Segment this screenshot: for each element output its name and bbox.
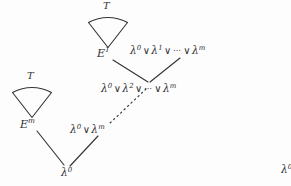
derivation-root-e1: E1 — [97, 48, 110, 59]
lambda-symbol: λ — [70, 123, 77, 135]
derivation-root-em: Em — [20, 119, 35, 130]
lambda-symbol: λ — [192, 44, 199, 56]
superscript-zero: 0 — [288, 164, 291, 171]
inference-edge-dotted — [109, 89, 146, 124]
inference-edges-solid — [37, 58, 180, 166]
lambda-symbol: λ — [130, 44, 137, 56]
vee-symbol: ∨ — [163, 45, 173, 56]
vee-symbol: ∨ — [81, 124, 91, 135]
clause-top-right: λ0∨λ1∨⋯∨λm — [130, 45, 206, 56]
vee-symbol: ∨ — [134, 83, 144, 94]
e1-superscript: 1 — [105, 45, 110, 54]
tree-label-bottom-left: T — [27, 71, 34, 81]
vee-symbol: ∨ — [112, 83, 122, 94]
vee-symbol: ∨ — [182, 45, 192, 56]
lambda-symbol: λ — [61, 166, 68, 178]
lambda-symbol: λ — [281, 164, 288, 175]
lambda-symbol: λ — [163, 82, 170, 94]
clause-middle: λ0∨λ2∨⋯∨λm — [101, 83, 177, 94]
diagram-canvas: T E1 λ0∨λ1∨⋯∨λm λ0∨λ2∨⋯∨λm T Em λ0∨λm λ0… — [0, 0, 291, 186]
superscript-m: m — [98, 123, 105, 131]
clause-bottom-resolvent: λ0 — [61, 167, 72, 178]
ellipsis-symbol: ⋯ — [173, 45, 182, 55]
lambda-symbol: λ — [101, 82, 108, 94]
vee-symbol: ∨ — [153, 83, 163, 94]
derivation-triangle-bottom-left — [13, 88, 52, 118]
vee-symbol: ∨ — [141, 45, 151, 56]
em-superscript: m — [28, 116, 35, 125]
e-symbol: E — [20, 118, 28, 131]
ellipsis-symbol: ⋯ — [144, 83, 153, 93]
derivation-triangle-top — [89, 18, 128, 48]
tree-label-top: T — [103, 1, 110, 11]
superscript-zero: 0 — [68, 166, 73, 174]
clause-right-clipped: λ0 — [281, 164, 291, 175]
e-symbol: E — [97, 47, 105, 60]
clause-lower: λ0∨λm — [70, 124, 105, 135]
superscript-m: m — [170, 82, 177, 90]
superscript-m: m — [199, 44, 206, 52]
